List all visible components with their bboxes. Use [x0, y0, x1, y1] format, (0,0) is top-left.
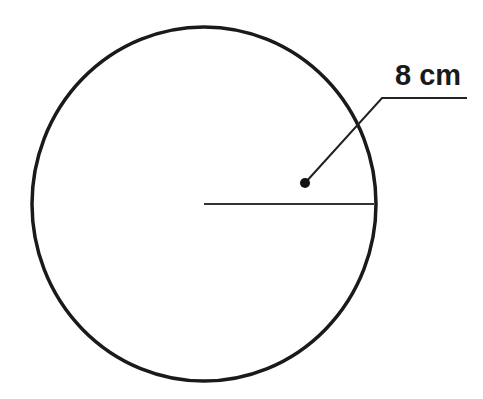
callout-leader-line — [305, 98, 467, 183]
circle-diagram: 8 cm — [0, 0, 483, 399]
callout-dot — [300, 178, 310, 188]
radius-label: 8 cm — [395, 59, 461, 91]
